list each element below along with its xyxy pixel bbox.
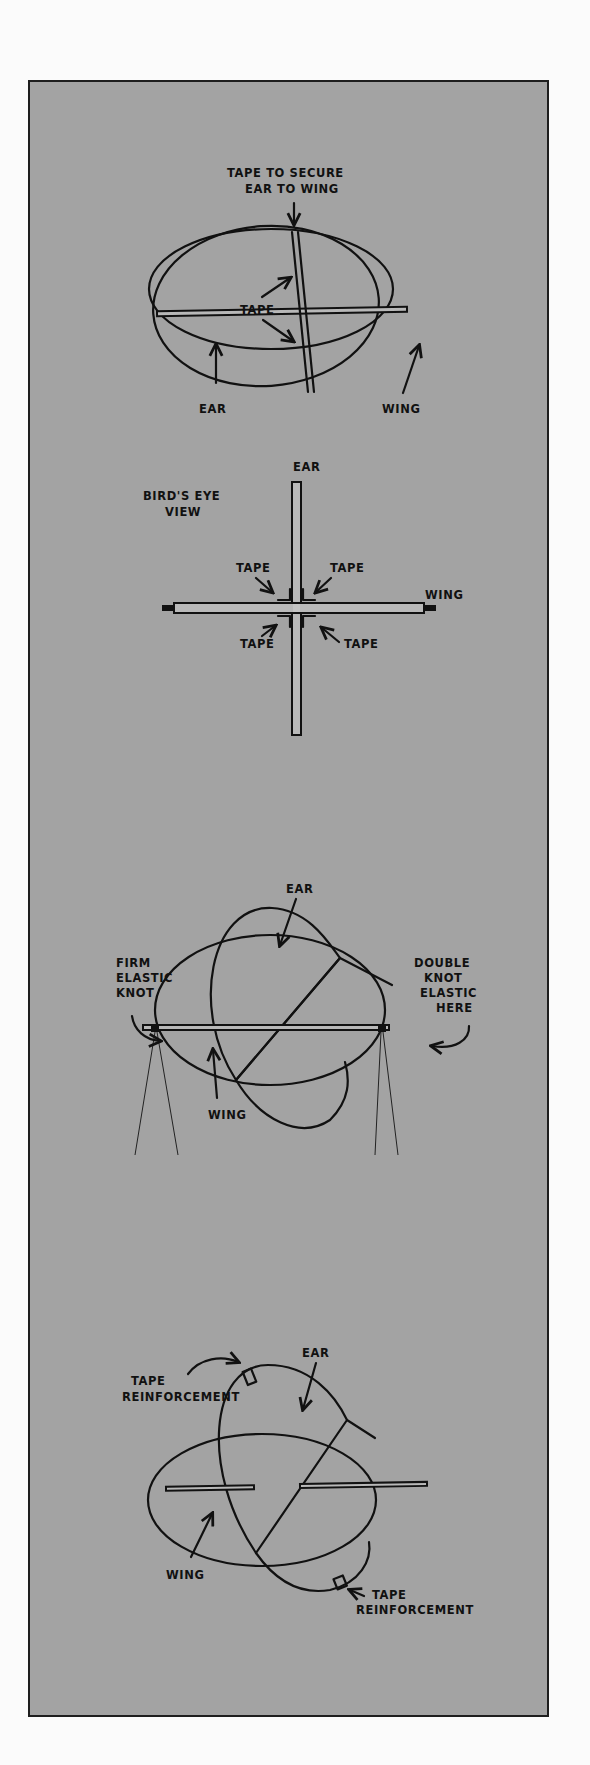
ear-label: EAR [293, 460, 320, 474]
right-note-line3: ELASTIC [420, 986, 477, 1000]
tape-corner [278, 616, 290, 627]
right-note-line1: DOUBLE [414, 956, 470, 970]
left-note-line2: ELASTIC [116, 971, 173, 985]
ear-label: EAR [302, 1346, 329, 1360]
left-note-line1: FIRM [116, 956, 151, 970]
wing-rod [166, 1485, 254, 1491]
wing-rod [157, 307, 407, 316]
wing-label: WING [425, 588, 463, 602]
tape-corner [278, 589, 290, 600]
rod-end [162, 605, 174, 611]
wing-label: WING [208, 1108, 246, 1122]
diagram-side-view: TAPE TO SECURE EAR TO WING TAPE EAR WING [148, 166, 421, 416]
tape-label: TAPE [344, 637, 379, 651]
arrow-icon [280, 899, 296, 945]
rod-end [424, 605, 436, 611]
tape-label: TAPE [240, 637, 275, 651]
arrow-icon [262, 626, 275, 636]
diagram-birds-eye-view: EAR BIRD'S EYE VIEW WING TAPE TAPE TAPE … [143, 460, 463, 735]
right-note-line4: HERE [436, 1001, 473, 1015]
arrow-icon [322, 628, 339, 642]
tape-square [243, 1369, 257, 1385]
arrow-icon [188, 1358, 238, 1374]
wing-outline [149, 229, 393, 349]
arrow-icon [316, 578, 331, 592]
tape-top-line1: TAPE [131, 1374, 166, 1388]
tape-bottom-line1: TAPE [372, 1588, 407, 1602]
arrow-icon [256, 578, 272, 592]
tape-corner [303, 616, 315, 627]
view-label-line1: BIRD'S EYE [143, 489, 220, 503]
diagram-tape-reinforcement: EAR TAPE REINFORCEMENT WING TAPE REINFOR… [122, 1346, 474, 1617]
wing-label: WING [382, 402, 420, 416]
tape-label: TAPE [236, 561, 271, 575]
knot [378, 1024, 386, 1032]
wing-outline [155, 935, 385, 1085]
arrow-icon [263, 320, 293, 341]
elastic-string [375, 1032, 381, 1155]
ear-label: EAR [199, 402, 226, 416]
arrow-icon [191, 1514, 212, 1557]
right-note-line2: KNOT [424, 971, 463, 985]
ear-label: EAR [286, 882, 313, 896]
tape-top-line2: REINFORCEMENT [122, 1390, 240, 1404]
view-label-line2: VIEW [165, 505, 201, 519]
arrow-icon [403, 346, 419, 393]
knot [151, 1024, 159, 1032]
arrow-icon [350, 1590, 364, 1596]
tape-label: TAPE [330, 561, 365, 575]
wing-label: WING [166, 1568, 204, 1582]
left-note-line3: KNOT [116, 986, 155, 1000]
title-label-line2: EAR TO WING [245, 182, 339, 196]
elastic-string [135, 1032, 155, 1155]
arrow-icon [262, 278, 290, 297]
arrow-icon [432, 1026, 469, 1047]
tape-label: TAPE [240, 303, 275, 317]
arrow-icon [303, 1363, 316, 1409]
diagram-elastic-assembly: EAR FIRM ELASTIC KNOT DOUBLE KNOT ELASTI… [116, 882, 477, 1155]
ear-lower-lobe [236, 1062, 348, 1128]
wing-outline [148, 1434, 376, 1566]
tape-corner [303, 589, 315, 600]
ear-outline [211, 908, 340, 1080]
arrow-icon [213, 1050, 217, 1098]
title-label-line1: TAPE TO SECURE [227, 166, 344, 180]
tape-bottom-line2: REINFORCEMENT [356, 1603, 474, 1617]
wing-rod [143, 1025, 389, 1030]
